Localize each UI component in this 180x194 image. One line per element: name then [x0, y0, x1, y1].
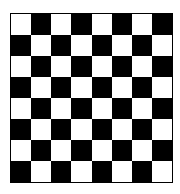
board-square-dark[interactable]: [132, 119, 152, 140]
board-square-light[interactable]: [31, 35, 51, 56]
board-square-light[interactable]: [92, 98, 112, 119]
board-square-light[interactable]: [132, 14, 152, 35]
board-square-light[interactable]: [71, 77, 91, 98]
board-square-light[interactable]: [71, 161, 91, 182]
board-square-dark[interactable]: [71, 14, 91, 35]
board-square-light[interactable]: [112, 35, 132, 56]
board-square-dark[interactable]: [71, 140, 91, 161]
checkerboard: [10, 13, 173, 183]
board-square-light[interactable]: [31, 119, 51, 140]
board-square-light[interactable]: [51, 56, 71, 77]
board-square-dark[interactable]: [31, 140, 51, 161]
board-square-light[interactable]: [11, 140, 31, 161]
board-square-dark[interactable]: [31, 56, 51, 77]
board-square-light[interactable]: [112, 161, 132, 182]
board-square-light[interactable]: [51, 140, 71, 161]
board-square-light[interactable]: [11, 14, 31, 35]
board-square-dark[interactable]: [11, 161, 31, 182]
board-square-dark[interactable]: [112, 14, 132, 35]
board-square-dark[interactable]: [51, 161, 71, 182]
board-square-dark[interactable]: [92, 35, 112, 56]
board-square-light[interactable]: [51, 98, 71, 119]
board-square-dark[interactable]: [92, 161, 112, 182]
board-square-dark[interactable]: [51, 35, 71, 56]
board-square-light[interactable]: [31, 161, 51, 182]
board-square-light[interactable]: [11, 56, 31, 77]
board-square-dark[interactable]: [112, 56, 132, 77]
board-square-light[interactable]: [31, 77, 51, 98]
board-square-light[interactable]: [11, 98, 31, 119]
board-square-dark[interactable]: [11, 77, 31, 98]
board-square-dark[interactable]: [112, 98, 132, 119]
board-square-light[interactable]: [132, 56, 152, 77]
board-square-light[interactable]: [112, 119, 132, 140]
board-square-dark[interactable]: [11, 119, 31, 140]
board-square-dark[interactable]: [31, 98, 51, 119]
board-square-dark[interactable]: [51, 77, 71, 98]
board-square-dark[interactable]: [132, 161, 152, 182]
board-square-dark[interactable]: [132, 35, 152, 56]
board-square-light[interactable]: [92, 56, 112, 77]
board-square-light[interactable]: [152, 119, 172, 140]
board-square-light[interactable]: [132, 140, 152, 161]
board-square-dark[interactable]: [112, 140, 132, 161]
board-square-light[interactable]: [92, 140, 112, 161]
board-square-dark[interactable]: [71, 98, 91, 119]
board-square-light[interactable]: [152, 77, 172, 98]
board-square-dark[interactable]: [31, 14, 51, 35]
board-square-dark[interactable]: [152, 56, 172, 77]
board-square-light[interactable]: [71, 119, 91, 140]
board-square-dark[interactable]: [51, 119, 71, 140]
board-square-light[interactable]: [152, 161, 172, 182]
board-square-dark[interactable]: [92, 119, 112, 140]
board-square-light[interactable]: [51, 14, 71, 35]
board-square-light[interactable]: [112, 77, 132, 98]
board-square-dark[interactable]: [152, 98, 172, 119]
board-square-light[interactable]: [92, 14, 112, 35]
board-square-light[interactable]: [152, 35, 172, 56]
board-square-dark[interactable]: [152, 140, 172, 161]
board-square-dark[interactable]: [152, 14, 172, 35]
board-square-light[interactable]: [71, 35, 91, 56]
board-square-dark[interactable]: [71, 56, 91, 77]
board-square-light[interactable]: [132, 98, 152, 119]
board-square-dark[interactable]: [92, 77, 112, 98]
board-square-dark[interactable]: [132, 77, 152, 98]
board-square-dark[interactable]: [11, 35, 31, 56]
